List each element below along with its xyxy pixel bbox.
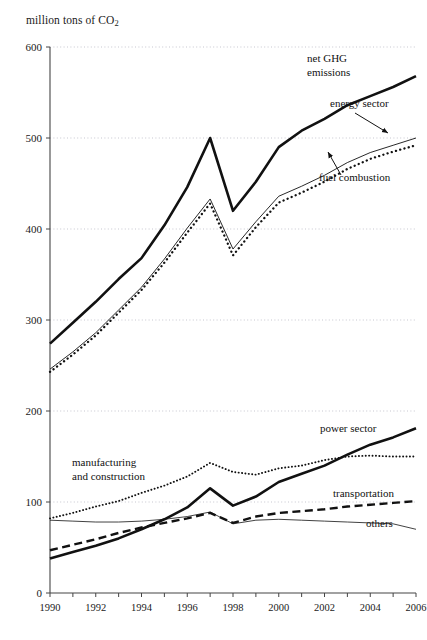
y-tick-label: 400 [26, 223, 43, 235]
y-tick-label: 300 [26, 314, 43, 326]
y-tick-label: 500 [26, 132, 43, 144]
x-tick-label: 1998 [223, 602, 244, 613]
annotation-manufacturing-and-construction-line2: and construction [72, 470, 146, 482]
x-tick-label: 1996 [177, 602, 198, 613]
x-tick-label: 2002 [314, 602, 335, 613]
x-tick-label: 2004 [360, 602, 382, 613]
series-others [50, 512, 416, 529]
annotation-net-ghg-emissions: net GHG [307, 52, 347, 64]
y-tick-label: 0 [37, 587, 43, 599]
annotation-net-ghg-emissions-line2: emissions [307, 66, 350, 78]
x-tick-label: 1994 [131, 602, 153, 613]
y-tick-label: 200 [26, 405, 43, 417]
annotation-fuel-combustion: fuel combustion [319, 171, 391, 183]
annotation-power-sector: power sector [320, 422, 377, 434]
series-annotations: net GHGemissionsenergy sectorfuel combus… [72, 52, 395, 529]
axes [46, 47, 416, 597]
x-tick-label: 2000 [268, 602, 289, 613]
x-tick-labels: 199019921994199619982000200220042006 [40, 602, 427, 613]
x-tick-label: 1992 [85, 602, 106, 613]
line-chart: 0100200300400500600 19901992199419961998… [0, 0, 427, 640]
annotation-manufacturing-and-construction: manufacturing [72, 456, 137, 468]
x-tick-label: 1990 [40, 602, 61, 613]
y-tick-label: 600 [26, 41, 43, 53]
annotation-transportation: transportation [333, 487, 395, 499]
annotation-others: others [366, 517, 393, 529]
annotation-arrow-energy-sector [355, 113, 388, 133]
x-tick-label: 2006 [406, 602, 427, 613]
chart-page: million tons of CO2 0100200300400500600 … [0, 0, 427, 640]
annotation-energy-sector: energy sector [330, 97, 389, 109]
y-tick-label: 100 [26, 496, 43, 508]
y-tick-labels: 0100200300400500600 [26, 41, 43, 599]
